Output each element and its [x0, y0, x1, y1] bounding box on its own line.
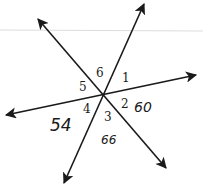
handwritten-value: 60 — [134, 99, 152, 115]
handwritten-value: 54 — [50, 115, 72, 135]
angle-label-1: 1 — [122, 71, 130, 85]
angle-diagram: 123456 605466 — [0, 0, 203, 186]
angle-label-5: 5 — [79, 80, 87, 94]
line-c — [6, 75, 196, 115]
faint-rule-line — [0, 30, 203, 31]
angle-label-3: 3 — [104, 110, 112, 124]
angle-label-2: 2 — [121, 97, 129, 111]
angle-label-6: 6 — [96, 66, 104, 80]
handwritten-values-group: 605466 — [50, 99, 152, 147]
angle-label-4: 4 — [83, 102, 91, 116]
handwritten-value: 66 — [101, 133, 117, 147]
